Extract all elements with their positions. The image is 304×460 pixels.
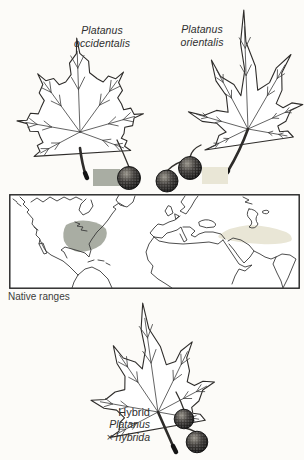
hybrid-species: × hybrida bbox=[92, 431, 150, 443]
occidentalis-seed-ball bbox=[118, 167, 141, 190]
occidentalis-color-swatch bbox=[93, 169, 120, 186]
hybrid-label: Hybrid Platanus × hybrida bbox=[92, 406, 150, 443]
figure-canvas: Platanus occidentalis Platanus orientali… bbox=[0, 0, 304, 460]
orientalis-seed-ball-1 bbox=[179, 157, 202, 180]
native-range-map bbox=[9, 194, 300, 289]
hybrid-seed-ball-2 bbox=[186, 431, 208, 453]
hybrid-heading: Hybrid bbox=[92, 406, 150, 418]
orientalis-seed-ball-2 bbox=[156, 170, 178, 192]
map-caption: Native ranges bbox=[8, 291, 70, 302]
hybrid-genus: Platanus bbox=[92, 418, 150, 430]
hybrid-seed-ball-1 bbox=[174, 409, 194, 429]
orientalis-color-swatch bbox=[202, 167, 228, 184]
